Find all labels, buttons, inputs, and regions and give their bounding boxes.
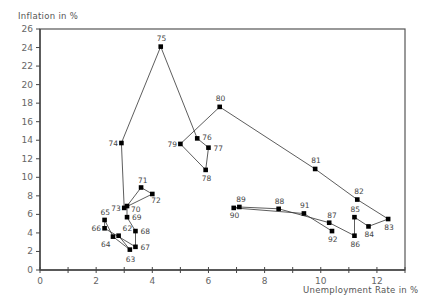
data-point-label: 66: [92, 224, 102, 233]
series-line: [105, 47, 389, 250]
y-tick-label: 2: [27, 246, 33, 256]
data-point-label: 70: [131, 205, 141, 214]
data-point-label: 75: [157, 34, 167, 43]
data-point-marker: [133, 245, 138, 250]
y-axis-title: Inflation in %: [18, 11, 78, 21]
data-point-marker: [302, 211, 307, 216]
data-point-marker: [111, 234, 116, 239]
data-point-marker: [133, 229, 138, 234]
x-tick-label: 12: [371, 276, 382, 286]
data-point-marker: [327, 220, 332, 225]
y-tick-label: 0: [27, 265, 33, 275]
y-tick-label: 14: [22, 135, 34, 145]
data-point-label: 71: [138, 176, 148, 185]
data-point-marker: [203, 168, 208, 173]
data-point-marker: [217, 105, 222, 110]
data-point-label: 90: [230, 211, 240, 220]
data-point-label: 81: [311, 156, 321, 165]
y-tick-label: 18: [22, 98, 34, 108]
data-point-marker: [352, 215, 357, 220]
data-point-label: 78: [202, 174, 212, 183]
x-tick-label: 4: [149, 276, 155, 286]
data-point-label: 91: [300, 201, 310, 210]
x-tick-label: 2: [93, 276, 99, 286]
data-point-label: 63: [126, 255, 136, 264]
data-point-marker: [139, 185, 144, 190]
x-tick-label: 10: [315, 276, 327, 286]
data-point-label: 67: [140, 243, 150, 252]
data-point-label: 65: [101, 208, 111, 217]
y-tick-label: 6: [27, 209, 33, 219]
data-point-marker: [122, 206, 127, 211]
data-point-marker: [366, 224, 371, 229]
data-point-label: 85: [350, 205, 360, 214]
data-point-marker: [178, 142, 183, 147]
data-point-label: 77: [213, 144, 223, 153]
data-point-marker: [116, 233, 121, 238]
data-point-marker: [158, 44, 163, 49]
data-point-label: 80: [216, 94, 226, 103]
y-tick-label: 4: [27, 228, 33, 238]
data-point-marker: [206, 145, 211, 150]
y-tick-label: 26: [22, 24, 34, 34]
data-point-label: 86: [350, 240, 360, 249]
data-point-label: 84: [365, 230, 375, 239]
data-point-marker: [195, 136, 200, 141]
data-point-label: 64: [101, 240, 111, 249]
y-tick-label: 20: [22, 80, 34, 90]
data-point-marker: [352, 233, 357, 238]
data-point-label: 87: [327, 211, 337, 220]
axes: 02468101202468101214161820222426: [22, 24, 405, 286]
x-tick-label: 8: [262, 276, 268, 286]
data-point-marker: [231, 206, 236, 211]
data-point-label: 82: [354, 187, 364, 196]
data-point-label: 74: [108, 139, 118, 148]
x-tick-label: 0: [37, 276, 43, 286]
data-point-label: 62: [123, 224, 133, 233]
data-point-label: 88: [275, 197, 285, 206]
data-point-marker: [102, 226, 107, 231]
data-point-marker: [128, 247, 133, 252]
data-point-marker: [330, 229, 335, 234]
data-point-label: 73: [111, 204, 121, 213]
data-point-marker: [125, 215, 130, 220]
y-tick-label: 16: [22, 117, 34, 127]
x-tick-label: 6: [206, 276, 212, 286]
data-point-marker: [276, 207, 281, 212]
y-tick-label: 24: [22, 43, 34, 53]
data-point-label: 72: [151, 196, 161, 205]
x-axis-title: Unemployment Rate in %: [303, 285, 418, 295]
data-series: 6263646566676869707172737475767778798081…: [92, 34, 394, 264]
data-point-label: 69: [132, 213, 142, 222]
data-point-marker: [119, 141, 124, 146]
y-tick-label: 22: [22, 61, 33, 71]
data-point-marker: [386, 217, 391, 222]
data-point-label: 92: [328, 235, 338, 244]
data-point-marker: [102, 218, 107, 223]
y-tick-label: 10: [22, 172, 34, 182]
phillips-curve-chart: Inflation in % Unemployment Rate in % 02…: [0, 0, 426, 304]
data-point-label: 76: [202, 133, 212, 142]
data-point-label: 79: [167, 140, 177, 149]
data-point-marker: [237, 205, 242, 210]
y-tick-label: 12: [22, 154, 33, 164]
data-point-marker: [355, 197, 360, 202]
y-tick-label: 8: [27, 191, 33, 201]
data-point-label: 83: [384, 223, 394, 232]
data-point-label: 68: [140, 227, 150, 236]
data-point-marker: [313, 167, 318, 172]
data-point-label: 89: [236, 195, 246, 204]
